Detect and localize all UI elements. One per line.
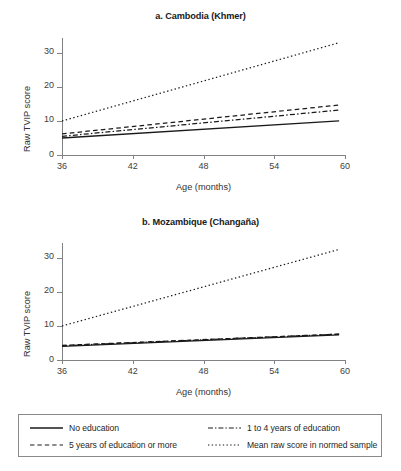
legend-row: No education 1 to 4 years of education bbox=[19, 419, 381, 436]
panel-a-plot-area: 01020303642485460 bbox=[62, 41, 345, 155]
x-axis-tick: 54 bbox=[274, 155, 275, 159]
x-axis-tick-label: 54 bbox=[269, 161, 279, 171]
y-axis-tick-label: 30 bbox=[44, 46, 54, 56]
panel-b-title: b. Mozambique (Changaña) bbox=[0, 217, 401, 227]
panel-b-y-axis-label: Raw TVIP score bbox=[22, 291, 32, 357]
x-axis-tick: 54 bbox=[274, 360, 275, 364]
x-axis-tick: 60 bbox=[345, 155, 346, 159]
series-line bbox=[62, 335, 339, 347]
x-axis-tick-label: 60 bbox=[340, 161, 350, 171]
dash-dot-line-icon bbox=[207, 423, 242, 433]
x-axis-tick: 60 bbox=[345, 360, 346, 364]
panel-b-plot-area: 01020303642485460 bbox=[62, 246, 345, 360]
legend-label: 1 to 4 years of education bbox=[247, 423, 340, 433]
x-axis-tick: 36 bbox=[62, 360, 63, 364]
solid-line-icon bbox=[29, 423, 64, 433]
y-axis-tick: 10 bbox=[57, 326, 62, 327]
panel-a-title: a. Cambodia (Khmer) bbox=[0, 11, 401, 21]
x-axis-tick: 48 bbox=[204, 155, 205, 159]
x-axis-tick-label: 54 bbox=[269, 366, 279, 376]
x-axis-tick-label: 42 bbox=[128, 161, 138, 171]
legend-label: 5 years of education or more bbox=[69, 440, 177, 450]
y-axis-tick-label: 0 bbox=[49, 354, 54, 364]
x-axis-tick-label: 36 bbox=[57, 161, 67, 171]
x-axis-tick-label: 48 bbox=[198, 161, 208, 171]
series-line bbox=[62, 249, 339, 326]
panel-b-series-lines bbox=[62, 246, 345, 360]
x-axis-tick-label: 36 bbox=[57, 366, 67, 376]
panel-b-x-axis-label: Age (months) bbox=[62, 387, 345, 397]
y-axis-tick: 30 bbox=[57, 258, 62, 259]
panel-a-x-axis-label: Age (months) bbox=[62, 182, 345, 192]
y-axis-tick-label: 10 bbox=[44, 319, 54, 329]
y-axis-tick-label: 0 bbox=[49, 149, 54, 159]
panel-a-series-lines bbox=[62, 41, 345, 155]
x-axis-tick: 36 bbox=[62, 155, 63, 159]
panel-a-y-axis-label: Raw TVIP score bbox=[22, 86, 32, 152]
chart-legend: No education 1 to 4 years of education 5… bbox=[18, 414, 382, 457]
legend-row: 5 years of education or more Mean raw sc… bbox=[19, 436, 381, 453]
x-axis-tick: 42 bbox=[133, 360, 134, 364]
legend-label: No education bbox=[69, 423, 119, 433]
y-axis-tick: 20 bbox=[57, 292, 62, 293]
x-axis-tick-label: 60 bbox=[340, 366, 350, 376]
y-axis-tick-label: 30 bbox=[44, 251, 54, 261]
dashed-line-icon bbox=[29, 440, 64, 450]
y-axis-tick: 30 bbox=[57, 53, 62, 54]
legend-label: Mean raw score in normed sample bbox=[247, 440, 377, 450]
dotted-line-icon bbox=[207, 440, 242, 450]
x-axis-tick: 48 bbox=[204, 360, 205, 364]
y-axis-tick: 20 bbox=[57, 87, 62, 88]
chart-panel-cambodia: a. Cambodia (Khmer) Raw TVIP score Age (… bbox=[0, 0, 401, 208]
legend-item-1-to-4-years: 1 to 4 years of education bbox=[202, 419, 381, 436]
legend-item-5-years-or-more: 5 years of education or more bbox=[19, 436, 202, 453]
x-axis-tick-label: 48 bbox=[198, 366, 208, 376]
y-axis-tick-label: 20 bbox=[44, 80, 54, 90]
y-axis-tick: 10 bbox=[57, 121, 62, 122]
x-axis-tick-label: 42 bbox=[128, 366, 138, 376]
legend-item-mean-normed-sample: Mean raw score in normed sample bbox=[202, 436, 381, 453]
legend-item-no-education: No education bbox=[19, 419, 202, 436]
x-axis-tick: 42 bbox=[133, 155, 134, 159]
y-axis-tick-label: 20 bbox=[44, 285, 54, 295]
y-axis-tick-label: 10 bbox=[44, 114, 54, 124]
